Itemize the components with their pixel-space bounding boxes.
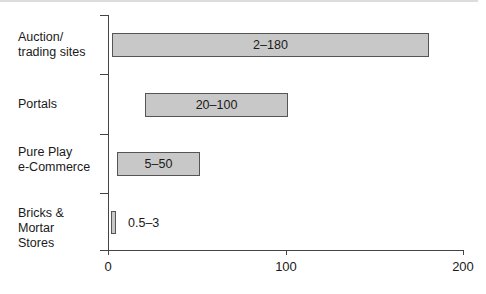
label-line: Bricks & Mortar — [18, 206, 103, 236]
category-label-portals: Portals — [18, 97, 103, 112]
x-tick — [108, 250, 109, 255]
y-tick — [100, 134, 108, 135]
y-axis — [108, 15, 109, 251]
label-line: e-Commerce — [18, 160, 103, 175]
x-tick-label: 200 — [443, 259, 483, 274]
bar-bricks-mortar — [111, 211, 116, 234]
x-tick — [463, 250, 464, 255]
y-tick — [100, 74, 108, 75]
bar-pure-play: 5–50 — [117, 152, 200, 176]
x-tick — [286, 250, 287, 255]
y-tick — [100, 193, 108, 194]
label-line: Auction/ — [18, 30, 103, 45]
label-line: trading sites — [18, 45, 103, 60]
bar-auction: 2–180 — [112, 33, 429, 57]
category-label-auction: Auction/ trading sites — [18, 30, 103, 60]
bar-value-label: 20–100 — [196, 98, 238, 112]
x-tick-label: 0 — [88, 259, 128, 274]
bar-portals: 20–100 — [145, 93, 288, 117]
category-label-pure-play: Pure Play e-Commerce — [18, 145, 103, 175]
x-tick-label: 100 — [266, 259, 306, 274]
label-line: Stores — [18, 236, 103, 251]
category-label-bricks-mortar: Bricks & Mortar Stores — [18, 206, 103, 251]
y-tick — [100, 15, 108, 16]
label-line: Portals — [18, 97, 103, 112]
x-axis — [100, 250, 464, 251]
bar-value-label: 5–50 — [145, 157, 173, 171]
top-border-line — [0, 0, 478, 2]
bar-value-label: 0.5–3 — [128, 216, 159, 230]
bar-value-label: 2–180 — [253, 38, 288, 52]
label-line: Pure Play — [18, 145, 103, 160]
